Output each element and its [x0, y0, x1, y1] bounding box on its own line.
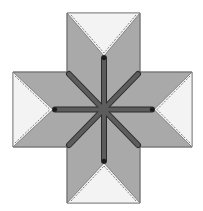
star-diagram — [0, 0, 203, 211]
spokes-inner — [55, 58, 152, 161]
